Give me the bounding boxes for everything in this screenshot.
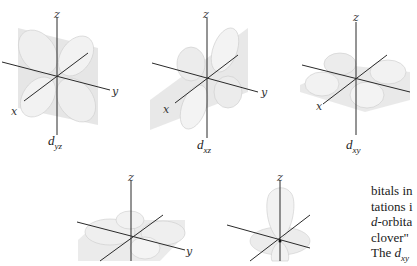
dyz-orbital-drawing (0, 0, 140, 150)
text-line: d-orbita (371, 214, 417, 230)
z-axis-label: z (353, 12, 359, 23)
orbital-label-dxz: dxz (197, 138, 211, 155)
orbital-panel-dyz: z y x dyz (0, 0, 140, 150)
z-axis-label: z (277, 172, 283, 183)
text-line: The dxy (371, 245, 417, 261)
orbital-panel-dz2: z (200, 160, 310, 261)
text-line: clover" (371, 230, 417, 246)
orbital-panel-dxy: z x dxy (270, 0, 410, 150)
orbital-label-dxy: dxy (346, 138, 361, 155)
z-axis-label: z (203, 9, 209, 20)
y-axis-label: y (112, 86, 118, 97)
z-axis-label: z (54, 9, 60, 20)
dz2-orbital-drawing (200, 160, 310, 261)
text-line: bitals in (371, 183, 417, 199)
orbital-label-dyz: dyz (48, 134, 62, 151)
dxy-orbital-drawing (270, 0, 410, 150)
x-axis-label: x (316, 101, 322, 112)
dxz-orbital-drawing (130, 0, 270, 150)
body-text-fragment: bitals in tations i d-orbita clover" The… (371, 183, 417, 261)
y-axis-label: y (186, 246, 192, 257)
x-axis-label: x (11, 106, 17, 117)
y-axis-label: y (261, 87, 267, 98)
orbital-panel-dxz: z y x dxz (130, 0, 270, 150)
z-axis-label: z (128, 172, 134, 183)
text-line: tations i (371, 199, 417, 215)
orbital-panel-dx2y2: z y (60, 160, 210, 261)
x-axis-label: x (163, 104, 169, 115)
